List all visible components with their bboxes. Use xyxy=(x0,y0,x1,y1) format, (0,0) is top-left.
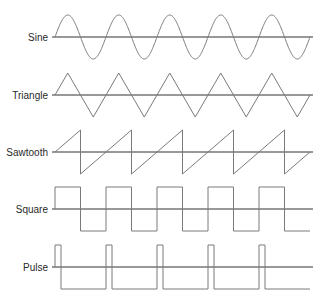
waveform-label-sine: Sine xyxy=(28,32,48,43)
waveform-row-sawtooth: Sawtooth xyxy=(6,130,313,174)
waveform-row-sine: Sine xyxy=(28,15,313,59)
waveform-label-square: Square xyxy=(16,204,49,215)
waveform-label-pulse: Pulse xyxy=(23,262,48,273)
waveform-label-sawtooth: Sawtooth xyxy=(6,147,48,158)
waveform-diagram: Sine Triangle Sawtooth Square Pulse xyxy=(0,0,326,301)
waveform-row-triangle: Triangle xyxy=(12,73,313,117)
waveform-label-triangle: Triangle xyxy=(12,90,48,101)
waveform-row-square: Square xyxy=(16,187,313,231)
waveform-row-pulse: Pulse xyxy=(23,245,313,289)
